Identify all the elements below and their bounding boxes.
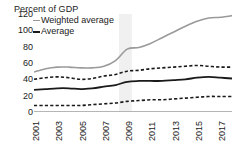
- x-axis-tick-label: 2015: [194, 121, 204, 141]
- recession-shading: [119, 14, 132, 112]
- x-axis-tick-labels: 200120032005200720092011201320152017: [34, 113, 232, 144]
- y-axis-tick-labels: 020406080100120: [10, 0, 33, 144]
- x-axis-tick-label: 2013: [171, 121, 181, 141]
- chart-figure: Percent of GDP 020406080100120 Weighted …: [0, 0, 236, 144]
- x-axis-tick-label: 2009: [124, 121, 134, 141]
- x-axis-tick-label: 2005: [78, 121, 88, 141]
- x-axis-tick-label: 2011: [147, 122, 157, 141]
- y-axis-tick-label: 20: [10, 91, 33, 101]
- y-axis-tick-label: 120: [10, 9, 33, 19]
- series-line: [34, 16, 232, 72]
- y-axis-tick-label: 100: [10, 25, 33, 35]
- x-axis-tick-label: 2007: [101, 121, 111, 141]
- y-axis-tick-label: 40: [10, 74, 33, 84]
- y-axis-tick-label: 0: [10, 107, 33, 117]
- y-axis-tick-label: 60: [10, 58, 33, 68]
- plot-area: [34, 14, 232, 112]
- series-line: [34, 96, 232, 105]
- y-axis-tick-label: 80: [10, 42, 33, 52]
- x-axis-tick-label: 2001: [31, 121, 41, 141]
- plot-svg: [34, 14, 232, 112]
- x-axis-tick-label: 2017: [217, 121, 227, 141]
- x-axis-tick-label: 2003: [54, 121, 64, 141]
- series-line: [34, 77, 232, 90]
